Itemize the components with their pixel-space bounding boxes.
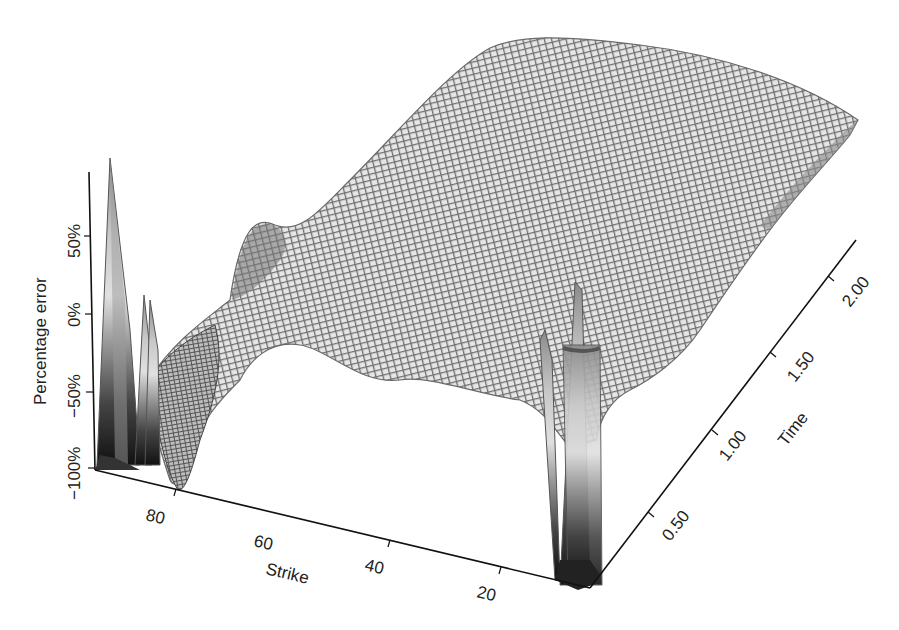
y-tick-label: 1.00 [715, 427, 750, 465]
y-tick-label: 1.50 [783, 348, 818, 386]
x-axis-labels: 80 60 40 20 Strike [144, 505, 498, 605]
z-tick-label: −100% [65, 447, 84, 500]
x-tick-label: 80 [144, 505, 167, 528]
z-tick-label: 50% [65, 224, 84, 258]
left-spikes [95, 158, 160, 470]
x-tick-label: 60 [252, 531, 275, 554]
y-tick-label: 0.50 [658, 507, 693, 545]
surface-mesh [150, 38, 858, 490]
x-tick-label: 20 [475, 582, 498, 605]
z-axis-labels: 50% 0% −50% −100% Percentage error [31, 224, 84, 500]
x-axis-strike [95, 470, 590, 588]
z-axis [89, 172, 95, 470]
z-axis-title: Percentage error [31, 277, 50, 405]
y-axis-title: Time [774, 408, 812, 449]
x-axis-title: Strike [264, 559, 311, 587]
z-tick-label: −50% [65, 374, 84, 418]
y-tick-label: 2.00 [838, 273, 873, 311]
x-tick-label: 40 [363, 555, 386, 578]
surface-chart: 50% 0% −50% −100% Percentage error 80 60… [0, 0, 899, 630]
z-tick-label: 0% [65, 302, 84, 327]
